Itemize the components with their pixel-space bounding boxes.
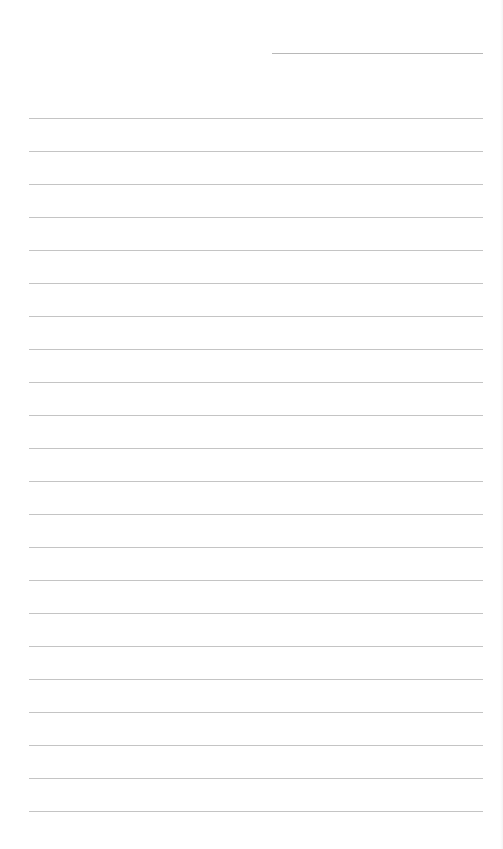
ruled-line bbox=[29, 382, 483, 383]
ruled-line bbox=[29, 547, 483, 548]
ruled-line bbox=[29, 184, 483, 185]
ruled-line bbox=[29, 712, 483, 713]
ruled-line bbox=[29, 349, 483, 350]
ruled-line bbox=[29, 283, 483, 284]
ruled-line bbox=[29, 217, 483, 218]
ruled-line bbox=[29, 679, 483, 680]
lined-paper-page bbox=[0, 0, 503, 849]
ruled-line bbox=[29, 778, 483, 779]
ruled-line bbox=[29, 151, 483, 152]
ruled-line bbox=[29, 811, 483, 812]
ruled-line bbox=[29, 118, 483, 119]
ruled-line bbox=[29, 250, 483, 251]
ruled-line bbox=[29, 448, 483, 449]
ruled-line bbox=[29, 481, 483, 482]
ruled-line bbox=[29, 613, 483, 614]
header-name-line bbox=[272, 53, 483, 54]
ruled-line bbox=[29, 745, 483, 746]
ruled-line bbox=[29, 580, 483, 581]
ruled-line bbox=[29, 316, 483, 317]
ruled-line bbox=[29, 415, 483, 416]
ruled-line bbox=[29, 514, 483, 515]
ruled-line bbox=[29, 646, 483, 647]
